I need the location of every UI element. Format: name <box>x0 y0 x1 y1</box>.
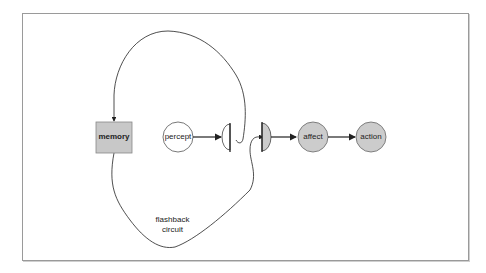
memory-label: memory <box>96 132 132 142</box>
loop-label-line1: flashback <box>150 215 195 225</box>
loop-label-line2: circuit <box>150 225 195 235</box>
gate1-node <box>222 124 230 150</box>
gate2-node <box>262 123 271 151</box>
percept-label: percept <box>163 132 193 142</box>
affect-label: affect <box>298 132 328 142</box>
action-label: action <box>356 132 386 142</box>
flashback-diagram <box>0 0 486 273</box>
